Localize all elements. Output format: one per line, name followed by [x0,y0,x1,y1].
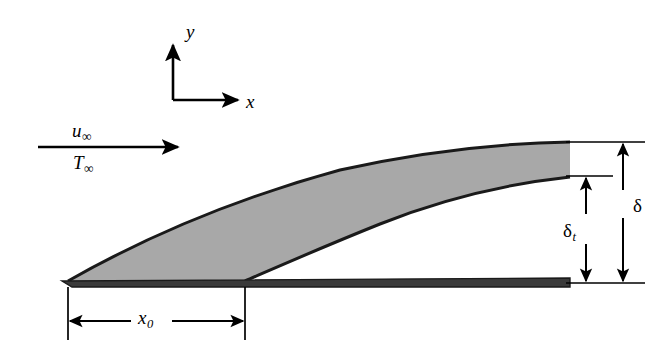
diagram-canvas [0,0,660,358]
boundary-layer-region [68,142,570,281]
freestream-temperature-subscript: ∞ [84,161,94,176]
coordinate-axes [173,45,238,100]
freestream-velocity-subscript: ∞ [82,129,92,144]
unheated-length-subscript: 0 [146,317,153,331]
unheated-length-label: x0 [138,308,153,331]
freestream-velocity-symbol: u [72,120,82,141]
y-axis-label: y [186,22,194,41]
freestream-temperature-symbol: T [73,152,84,173]
thermal-thickness-label: δt [563,221,576,244]
thermal-thickness-symbol: δ [563,220,572,241]
thermal-thickness-subscript: t [572,230,576,244]
boundary-layer-figure: y x u∞ T∞ δ δt x0 [0,0,660,358]
x-axis-label: x [246,92,254,111]
unheated-length-dimension [68,287,245,340]
freestream-temperature-label: T∞ [73,153,94,176]
velocity-thickness-label: δ [633,196,642,215]
freestream-velocity-label: u∞ [72,121,92,144]
